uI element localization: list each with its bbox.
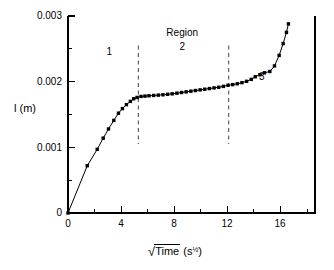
data-point-marker (117, 111, 120, 114)
radical-group: √Time (148, 244, 180, 259)
data-point-marker (129, 100, 132, 103)
chart-figure: 0.003 0.002 0.001 0 0 4 8 12 16 l (m) √T… (0, 0, 334, 270)
y-axis-title: l (m) (14, 102, 36, 114)
data-point-marker (157, 93, 160, 96)
annotation-region-1: 1 (79, 46, 139, 57)
data-point-marker (277, 54, 280, 57)
data-point-marker (198, 88, 201, 91)
data-point-marker (273, 64, 276, 67)
data-point-marker (143, 94, 146, 97)
y-tick-label-0: 0 (16, 207, 62, 218)
x-tick-label-16: 16 (270, 218, 290, 229)
data-point-marker (166, 93, 169, 96)
data-point-marker (132, 97, 135, 100)
x-tick-label-4: 4 (111, 218, 131, 229)
data-point-marker (287, 22, 290, 25)
x-axis-title: √Time (s½) (148, 244, 202, 259)
data-point-marker (226, 84, 229, 87)
x-tick-label-12: 12 (217, 218, 237, 229)
data-point-marker (194, 89, 197, 92)
data-point-marker (175, 91, 178, 94)
y-tick-label-0p001: 0.001 (16, 142, 62, 153)
x-axis-major-ticks (68, 206, 280, 213)
data-point-marker (281, 42, 284, 45)
data-point-marker (222, 85, 225, 88)
y-tick-label-0p002: 0.002 (16, 76, 62, 87)
data-point-marker (171, 92, 174, 95)
x-axis-unit-close: ) (198, 245, 202, 257)
y-axis-minor-ticks (68, 49, 72, 180)
data-point-marker (285, 31, 288, 34)
data-point-marker (217, 86, 220, 89)
data-point-marker (161, 93, 164, 96)
data-point-marker (208, 87, 211, 90)
x-axis-minor-ticks (95, 209, 307, 213)
data-point-marker (212, 86, 215, 89)
data-point-marker (107, 127, 110, 130)
data-point-marker (125, 103, 128, 106)
x-tick-label-8: 8 (164, 218, 184, 229)
data-point-marker (135, 96, 138, 99)
data-point-marker (66, 211, 69, 214)
x-axis-title-radicand: Time (154, 244, 180, 257)
data-point-marker (231, 83, 234, 86)
data-point-marker (236, 82, 239, 85)
data-point-marker (203, 88, 206, 91)
data-point-marker (121, 107, 124, 110)
data-point-marker (139, 95, 142, 98)
data-point-marker (112, 119, 115, 122)
data-point-marker (147, 94, 150, 97)
data-point-marker (184, 90, 187, 93)
annotation-region-3: 3 (232, 71, 292, 82)
data-point-marker (189, 89, 192, 92)
annotation-region-word: Region (152, 27, 212, 38)
annotation-region-2: 2 (152, 41, 212, 52)
data-point-marker (101, 136, 104, 139)
data-point-marker (96, 148, 99, 151)
data-point-marker (152, 94, 155, 97)
data-point-marker (86, 164, 89, 167)
data-point-marker (180, 91, 183, 94)
region-divider-lines (138, 46, 228, 145)
y-tick-label-0p003: 0.003 (16, 10, 62, 21)
x-tick-label-0: 0 (58, 218, 78, 229)
